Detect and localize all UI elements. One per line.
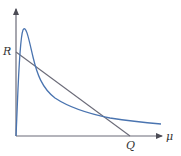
distribution-curve bbox=[16, 29, 161, 136]
q-label: Q bbox=[126, 140, 135, 151]
straight-line-r-to-q bbox=[16, 52, 130, 136]
diagram-canvas bbox=[0, 0, 181, 156]
mu-axis-label: μ bbox=[166, 131, 173, 142]
r-label: R bbox=[3, 46, 11, 57]
